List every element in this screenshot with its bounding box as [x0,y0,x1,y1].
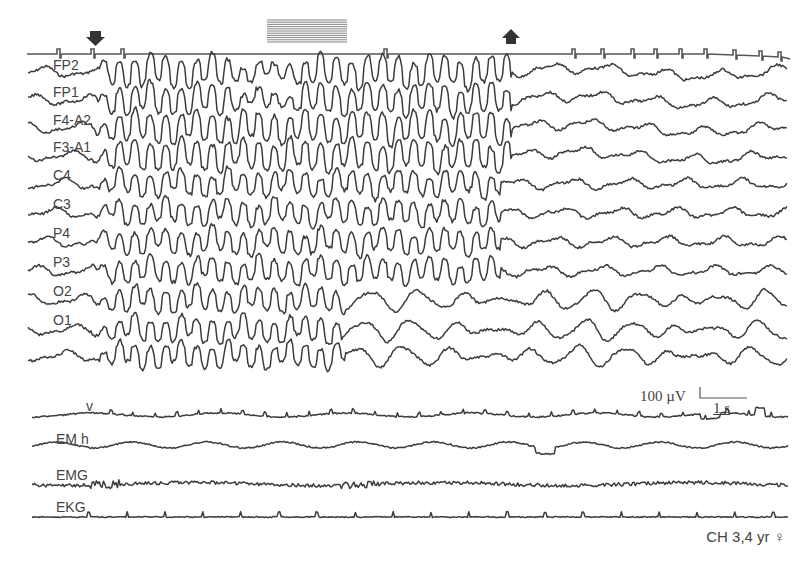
scale-bar [700,387,747,398]
channel-label: EM h [56,432,89,446]
channel-label: v [86,399,93,413]
channel-label: O2 [53,284,72,298]
eeg-tracing [0,0,809,564]
trace-f3-a1 [28,136,787,175]
channel-traces [28,51,788,517]
amplitude-scale-label: 100 µV [640,388,686,405]
down-arrow-icon [86,31,105,46]
channel-label: P3 [53,255,70,269]
time-scale-label: 1 s [713,400,730,417]
channel-label: F3-A1 [53,140,91,154]
trace-o2 [28,283,787,315]
channel-label: FP1 [53,85,79,99]
channel-label: C3 [53,197,71,211]
trace-p4 [28,224,787,259]
trace-fp2 [28,51,787,92]
channel-label: F4-A2 [53,113,91,127]
trace-f4-a2 [28,107,787,148]
stimulus-bar [267,20,347,42]
channel-label: C4 [53,168,71,182]
trace-v [32,407,788,419]
up-arrow-icon [502,29,520,44]
channel-label: EKG [56,500,86,514]
channel-label: EMG [56,468,88,482]
channel-label: FP2 [53,58,79,72]
event-marker-line [27,49,790,61]
trace-o1 [28,312,787,344]
trace-em-h [32,441,788,454]
trace-ekg [32,512,788,518]
channel-label: O1 [53,313,72,327]
trace-p3 [28,253,787,286]
trace-c3 [28,196,787,229]
trace-emg [32,480,788,489]
figure-caption: CH 3,4 yr ♀ [706,528,785,545]
trace-unlabeled [28,339,787,372]
trace-c4 [28,166,787,202]
channel-label: P4 [53,226,70,240]
